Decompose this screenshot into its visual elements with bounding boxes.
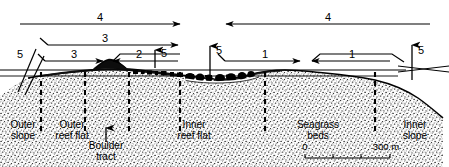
zone-label-line2: beds	[297, 131, 339, 142]
arrow-label-top-left-4: 4	[97, 12, 103, 24]
arrow-label-third-3: 3	[71, 49, 77, 61]
zone-label-line2: slope	[403, 131, 427, 142]
arrow-elbow-2	[113, 54, 180, 61]
zone-label-seagrass-beds: Seagrassbeds	[297, 120, 339, 142]
arrow-label-third-2: 2	[136, 49, 142, 61]
zone-label-line2: tract	[89, 152, 123, 163]
arrow-label-boulder-tract-up: 5	[161, 48, 167, 60]
zone-label-inner-reef-flat: Innerreef flat	[177, 120, 210, 142]
zone-label-inner-slope: Innerslope	[403, 120, 427, 142]
zone-label-line2: reef flat	[55, 131, 88, 142]
arrow-label-inner-slope-up: 5	[418, 45, 424, 57]
scale-bar-left-label: 0	[302, 142, 307, 152]
zone-label-outer-reef-flat: Outerreef flat	[55, 120, 88, 142]
zone-label-line2: slope	[10, 131, 35, 142]
reef-cross-section-figure: 44332115555OuterslopeOuterreef flatBould…	[0, 0, 449, 167]
zone-label-boulder-tract: Bouldertract	[89, 141, 123, 163]
zone-label-outer-slope: Outerslope	[10, 120, 35, 142]
scale-bar-right-label: 300 m	[373, 142, 399, 152]
arrow-label-inner-reef-flat-up: 5	[216, 45, 222, 57]
arrow-label-second-3: 3	[102, 33, 108, 45]
arrow-label-right-1-a: 1	[262, 49, 268, 61]
arrow-label-top-right-4: 4	[325, 12, 331, 24]
arrow-label-right-1-b: 1	[349, 49, 355, 61]
zone-label-line2: reef flat	[177, 131, 210, 142]
arrow-elbow-0	[40, 38, 48, 45]
arrow-label-outer-slope-5: 5	[17, 49, 23, 61]
